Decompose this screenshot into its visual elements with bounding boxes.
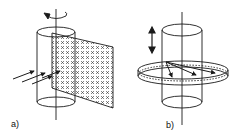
panel-a-label: a): [11, 119, 19, 129]
vertical-double-arrow-icon: [149, 27, 155, 53]
panel-b: [138, 12, 228, 125]
panel-b-label: b): [166, 120, 174, 130]
panel-a: [13, 9, 113, 120]
rotation-arrow-icon: [44, 12, 67, 19]
ring-inner-arrows: [166, 62, 215, 77]
diagram-canvas: [0, 0, 238, 138]
